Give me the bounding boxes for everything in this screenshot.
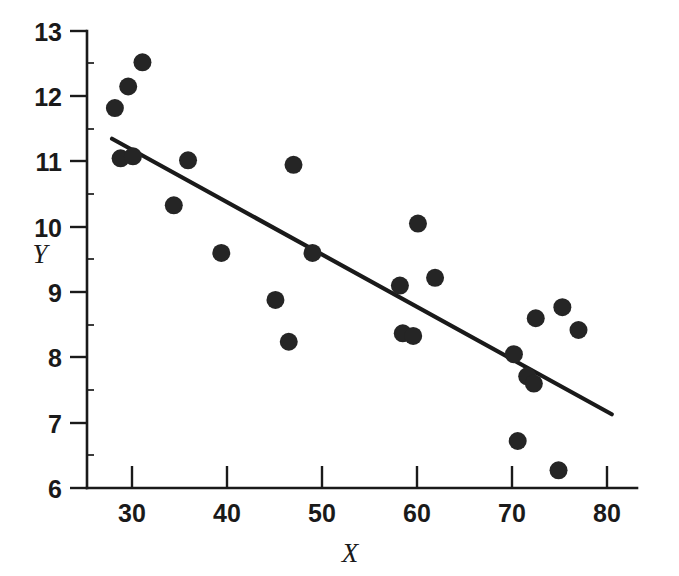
data-point xyxy=(505,345,523,363)
data-point xyxy=(409,215,427,233)
data-point xyxy=(426,269,444,287)
data-point xyxy=(165,196,183,214)
x-tick-label: 70 xyxy=(498,499,526,527)
x-tick-label: 50 xyxy=(308,499,336,527)
y-tick-label: 12 xyxy=(34,83,62,111)
data-point xyxy=(179,151,197,169)
data-point xyxy=(133,53,151,71)
data-point xyxy=(266,291,284,309)
plot-canvas: 13 12 11 10 9 8 7 6 30 40 50 60 70 80 Y … xyxy=(0,0,679,576)
data-point xyxy=(570,321,588,339)
data-point xyxy=(550,461,568,479)
y-axis-title: Y xyxy=(32,239,50,269)
data-point xyxy=(525,375,543,393)
x-tick-label: 60 xyxy=(403,499,431,527)
y-tick-label: 11 xyxy=(36,148,63,176)
data-point xyxy=(124,147,142,165)
y-tick-label: 8 xyxy=(48,344,62,372)
x-axis-ticks xyxy=(132,466,607,488)
y-tick-label: 13 xyxy=(34,18,62,46)
data-point xyxy=(285,156,303,174)
regression-line xyxy=(112,139,612,415)
y-tick-label: 9 xyxy=(48,279,62,307)
x-tick-label: 30 xyxy=(118,499,146,527)
x-tick-label: 40 xyxy=(213,499,241,527)
x-tick-label: 80 xyxy=(593,499,621,527)
y-tick-label: 7 xyxy=(48,410,62,438)
data-point xyxy=(509,432,527,450)
data-point xyxy=(391,277,409,295)
x-tick-labels: 30 40 50 60 70 80 xyxy=(118,499,621,527)
data-point xyxy=(106,99,124,117)
data-point xyxy=(527,309,545,327)
data-point xyxy=(553,298,571,316)
data-point xyxy=(280,333,298,351)
y-tick-label: 6 xyxy=(48,475,62,503)
y-axis-ticks xyxy=(70,31,87,488)
data-point xyxy=(404,327,422,345)
x-axis-title: X xyxy=(341,538,360,568)
scatter-plot-figure: 13 12 11 10 9 8 7 6 30 40 50 60 70 80 Y … xyxy=(0,0,679,576)
data-point xyxy=(119,77,137,95)
y-tick-label: 10 xyxy=(34,214,62,242)
data-point xyxy=(212,244,230,262)
data-point xyxy=(304,244,322,262)
